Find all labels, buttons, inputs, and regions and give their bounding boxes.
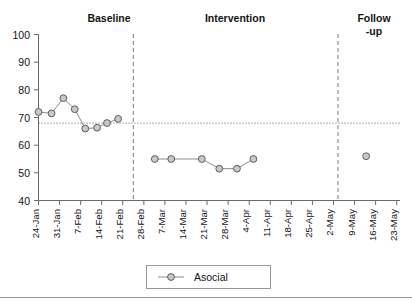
single-case-design-line-chart: Baseline Intervention Follow -up 100 90 … [0,0,412,301]
data-point[interactable] [104,120,111,127]
x-tick-label-28-Mar: 28-Mar [219,208,230,239]
data-point[interactable] [168,156,175,163]
x-tick-label-25-Apr: 25-Apr [303,208,314,238]
x-tick-label-23-May: 23-May [388,209,399,241]
y-tick-label-40: 40 [18,195,30,207]
data-point[interactable] [60,95,67,102]
x-tick-label-18-Apr: 18-Apr [282,208,293,238]
x-tick-label-11-Apr: 11-Apr [261,208,272,237]
x-tick-label-7-Feb: 7-Feb [72,209,83,234]
chart-background [0,0,412,301]
legend-marker-circle [168,274,175,281]
x-tick-label-21-Mar: 21-Mar [198,208,209,239]
y-tick-label-80: 80 [18,84,30,96]
phase-label-followup-line2: -up [366,25,382,37]
data-point[interactable] [82,125,89,132]
x-tick-label-24-Jan: 24-Jan [30,209,41,238]
x-tick-label-14-Feb: 14-Feb [93,209,104,239]
y-tick-label-90: 90 [18,56,30,68]
x-tick-label-16-May: 16-May [367,209,378,241]
data-point[interactable] [250,156,257,163]
x-tick-label-4-Apr: 4-Apr [240,208,251,232]
data-point[interactable] [71,106,78,113]
x-tick-label-28-Feb: 28-Feb [135,209,146,239]
y-tick-label-50: 50 [18,167,30,179]
y-tick-label-100: 100 [12,29,30,41]
y-tick-label-60: 60 [18,139,30,151]
x-tick-label-7-Mar: 7-Mar [156,208,167,234]
x-tick-label-21-Feb: 21-Feb [114,209,125,239]
x-tick-label-2-May: 2-May [324,209,335,236]
phase-label-intervention: Intervention [205,12,265,24]
chart-container: Baseline Intervention Follow -up 100 90 … [0,0,412,301]
data-point[interactable] [94,124,101,131]
data-point[interactable] [234,165,241,172]
x-tick-label-31-Jan: 31-Jan [51,209,62,238]
data-point[interactable] [35,109,42,116]
phase-label-followup-line1: Follow [357,12,391,24]
data-point[interactable] [363,153,370,160]
data-point[interactable] [115,115,122,122]
data-point[interactable] [198,156,205,163]
data-point[interactable] [151,156,158,163]
chart-legend[interactable]: Asocial [147,266,271,289]
y-tick-label-70: 70 [18,112,30,124]
x-tick-label-14-Mar: 14-Mar [177,208,188,239]
phase-label-baseline: Baseline [87,12,130,24]
x-tick-label-9-May: 9-May [346,209,357,236]
legend-label-asocial: Asocial [194,271,228,283]
data-point[interactable] [48,110,55,117]
data-point[interactable] [216,165,223,172]
